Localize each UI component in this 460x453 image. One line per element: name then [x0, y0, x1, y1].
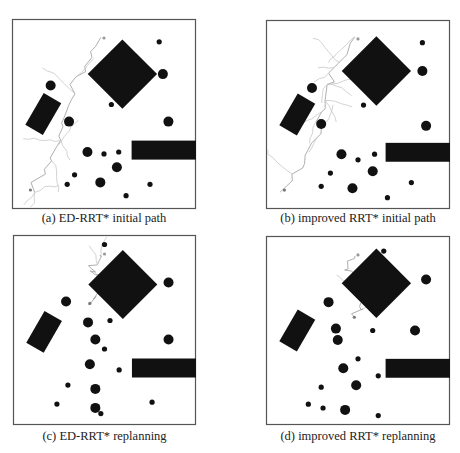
circle-obstacle [107, 318, 112, 323]
circle-obstacle [417, 66, 427, 76]
panel-c-svg [13, 235, 196, 425]
circle-obstacle [381, 249, 386, 254]
circle-obstacle [157, 39, 162, 44]
circle-obstacle [147, 182, 152, 187]
circle-obstacle [307, 83, 317, 93]
panel-b-caption: (b) improved RRT* initial path [250, 211, 460, 226]
circle-obstacle [336, 149, 346, 159]
circle-obstacle [90, 384, 100, 394]
circle-obstacle [333, 335, 343, 345]
start-point [353, 316, 356, 319]
circle-obstacle [372, 152, 377, 157]
circle-obstacle [164, 278, 174, 288]
circle-obstacle [112, 162, 122, 172]
circle-obstacle [340, 405, 350, 415]
circle-obstacle [123, 193, 128, 198]
circle-obstacle [320, 405, 325, 410]
circle-obstacle [351, 380, 361, 390]
goal-point [103, 252, 106, 255]
circle-obstacle [109, 102, 114, 107]
circle-obstacle [368, 166, 378, 176]
circle-obstacle [306, 402, 311, 407]
circle-obstacle [61, 297, 71, 307]
bar-obstacle [386, 143, 450, 162]
circle-obstacle [149, 400, 154, 405]
circle-obstacle [102, 346, 107, 351]
bar-obstacle [386, 359, 450, 378]
circle-obstacle [101, 151, 106, 156]
circle-obstacle [102, 242, 107, 247]
circle-obstacle [72, 172, 77, 177]
panel-b-svg [266, 20, 450, 209]
circle-obstacle [90, 403, 100, 413]
panel-d-map [266, 236, 450, 425]
circle-obstacle [410, 326, 420, 336]
circle-obstacle [338, 363, 348, 373]
circle-obstacle [164, 335, 174, 345]
circle-obstacle [46, 81, 56, 91]
panel-c-caption: (c) ED-RRT* replanning [13, 429, 196, 444]
circle-obstacle [409, 180, 414, 185]
start-point [88, 302, 91, 305]
circle-obstacle [328, 170, 333, 175]
panel-d-svg [266, 236, 450, 425]
circle-obstacle [420, 40, 425, 45]
circle-obstacle [385, 195, 390, 200]
circle-obstacle [421, 274, 431, 284]
goal-point [102, 36, 105, 39]
circle-obstacle [64, 117, 74, 127]
circle-obstacle [98, 411, 103, 416]
circle-obstacle [319, 385, 324, 390]
goal-point [356, 37, 359, 40]
panel-c-map [13, 235, 196, 425]
start-point [283, 189, 286, 192]
start-point [29, 188, 32, 191]
circle-obstacle [319, 184, 324, 189]
circle-obstacle [331, 324, 341, 334]
circle-obstacle [163, 117, 173, 127]
circle-obstacle [90, 335, 100, 345]
panel-a-caption: (a) ED-RRT* initial path [12, 211, 196, 226]
circle-obstacle [376, 373, 381, 378]
circle-obstacle [95, 177, 105, 187]
circle-obstacle [117, 367, 122, 372]
circle-obstacle [158, 69, 168, 79]
circle-obstacle [347, 183, 357, 193]
circle-obstacle [376, 413, 381, 418]
circle-obstacle [85, 359, 95, 369]
goal-point [356, 253, 359, 256]
circle-obstacle [316, 119, 326, 129]
circle-obstacle [82, 147, 92, 157]
circle-obstacle [361, 102, 366, 107]
bar-obstacle [132, 141, 196, 160]
circle-obstacle [65, 383, 70, 388]
circle-obstacle [355, 356, 360, 361]
circle-obstacle [355, 157, 360, 162]
panel-d-caption: (d) improved RRT* replanning [250, 429, 460, 444]
panel-b-map [266, 20, 450, 209]
circle-obstacle [65, 182, 70, 187]
circle-obstacle [370, 328, 375, 333]
circle-obstacle [324, 297, 334, 307]
circle-obstacle [421, 121, 431, 131]
panel-a-svg [12, 19, 196, 209]
bar-obstacle [132, 359, 196, 378]
circle-obstacle [54, 402, 59, 407]
circle-obstacle [83, 317, 93, 327]
panel-a-map [12, 19, 196, 209]
circle-obstacle [116, 149, 121, 154]
